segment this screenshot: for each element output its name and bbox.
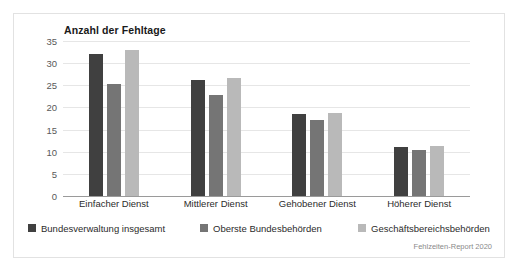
bar — [394, 147, 408, 196]
x-axis-tick-label: Höherer Dienst — [387, 198, 451, 209]
bar — [227, 78, 241, 196]
bar — [328, 113, 342, 196]
chart-legend: Bundesverwaltung insgesamtOberste Bundes… — [28, 220, 498, 236]
x-axis-tick-label: Mittlerer Dienst — [184, 198, 248, 209]
bar — [107, 84, 121, 196]
bar — [430, 146, 444, 196]
legend-swatch — [358, 224, 366, 232]
legend-item: Oberste Bundesbehörden — [200, 223, 322, 234]
chart-figure: Anzahl der Fehltage 05101520253035 Einfa… — [13, 13, 505, 258]
bar-group — [368, 41, 470, 196]
legend-label: Geschäftsbereichsbehörden — [371, 223, 490, 234]
legend-item: Bundesverwaltung insgesamt — [28, 223, 165, 234]
legend-label: Bundesverwaltung insgesamt — [41, 223, 165, 234]
bar-group — [267, 41, 369, 196]
x-axis-tick-label: Gehobener Dienst — [279, 198, 356, 209]
bar-group — [165, 41, 267, 196]
x-axis-line — [63, 196, 470, 197]
x-axis-tick-label: Einfacher Dienst — [79, 198, 149, 209]
x-axis-tick-labels: Einfacher DienstMittlerer DienstGehobene… — [63, 198, 470, 214]
bar — [89, 54, 103, 196]
plot-area — [63, 41, 470, 196]
y-axis-tick-label: 35 — [46, 36, 57, 47]
bar-group — [63, 41, 165, 196]
y-axis-tick-label: 0 — [52, 191, 57, 202]
bar — [310, 120, 324, 196]
bar — [209, 95, 223, 196]
bar — [292, 114, 306, 196]
y-axis-tick-label: 20 — [46, 102, 57, 113]
y-axis-tick-label: 15 — [46, 124, 57, 135]
chart-title: Anzahl der Fehltage — [64, 24, 166, 36]
source-note: Fehlzeiten-Report 2020 — [414, 242, 492, 251]
legend-item: Geschäftsbereichsbehörden — [358, 223, 490, 234]
bar — [412, 150, 426, 196]
legend-swatch — [200, 224, 208, 232]
y-axis-tick-label: 30 — [46, 58, 57, 69]
y-axis-tick-label: 5 — [52, 168, 57, 179]
legend-swatch — [28, 224, 36, 232]
y-axis-tick-label: 25 — [46, 80, 57, 91]
bar — [191, 80, 205, 196]
legend-label: Oberste Bundesbehörden — [213, 223, 322, 234]
y-axis-tick-label: 10 — [46, 146, 57, 157]
bar — [125, 50, 139, 196]
y-axis: 05101520253035 — [14, 41, 63, 196]
